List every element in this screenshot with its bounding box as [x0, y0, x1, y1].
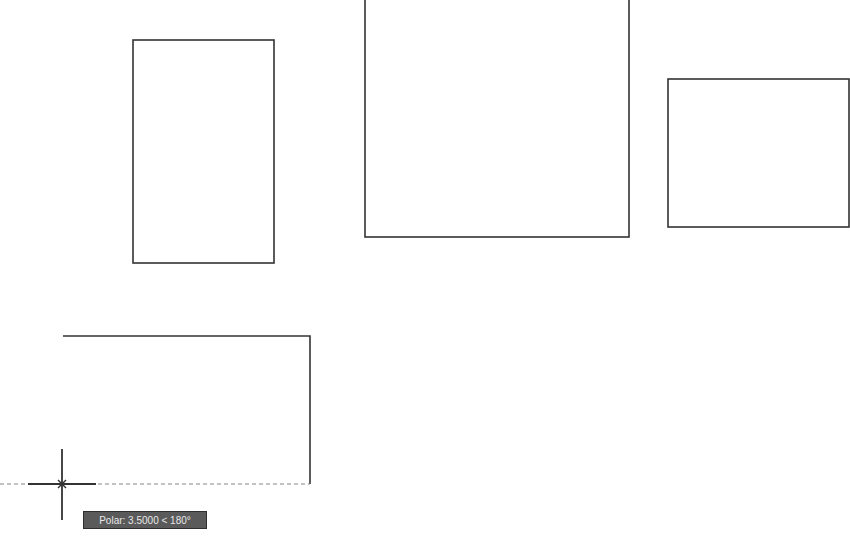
crosshair-icon [28, 449, 96, 520]
polar-tooltip: Polar: 3.5000 < 180° [83, 511, 207, 529]
drawing-canvas[interactable] [0, 0, 850, 549]
rect-2[interactable] [365, 0, 629, 237]
rect-3[interactable] [668, 79, 849, 227]
drawn-rectangles [133, 0, 849, 263]
polyline-in-progress [63, 336, 310, 484]
rect-1[interactable] [133, 40, 274, 263]
